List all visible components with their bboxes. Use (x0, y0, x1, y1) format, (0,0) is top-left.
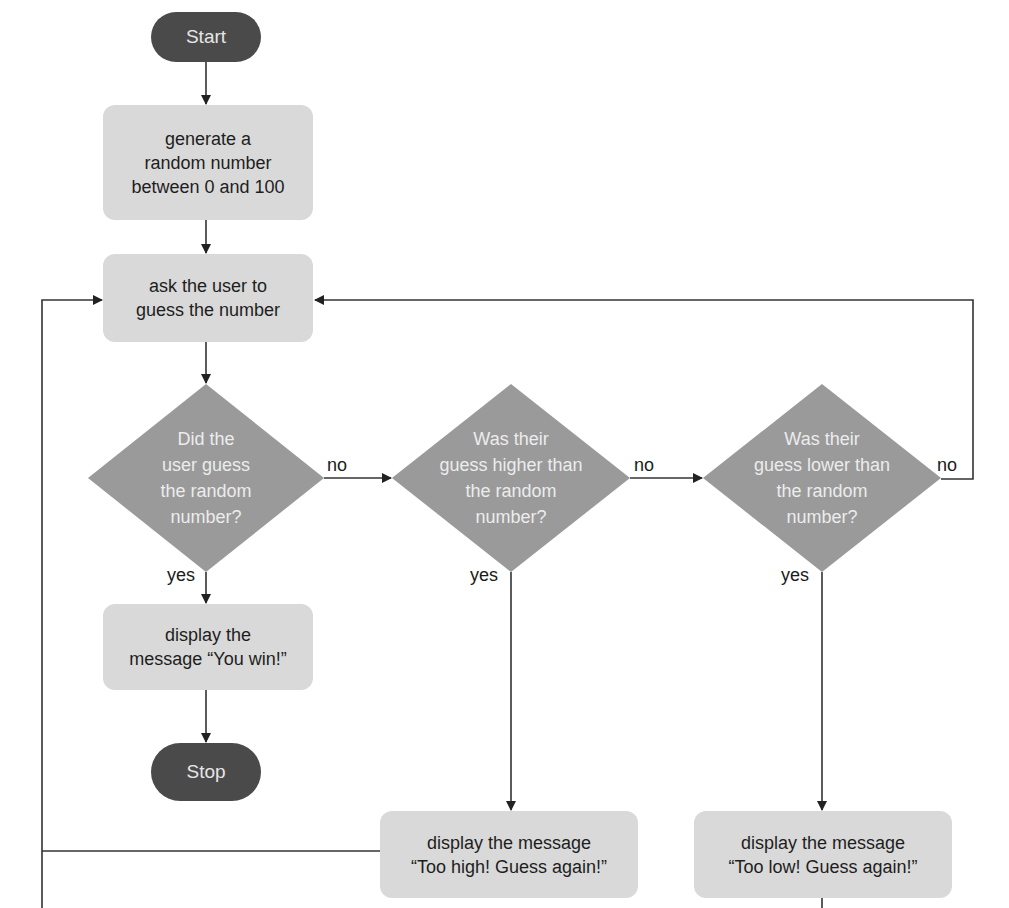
ask-guess-process: ask the user to guess the number (103, 254, 313, 342)
decision-correct-label: Did the user guess the random number? (160, 426, 251, 530)
too-high-message-process: display the message “Too high! Guess aga… (380, 811, 638, 898)
win-label: display the message “You win!” (129, 623, 286, 671)
edge-label-higher-no: no (634, 455, 654, 475)
edge-label-lower-yes: yes (781, 565, 809, 585)
too-low-message-process: display the message “Too low! Guess agai… (694, 811, 952, 898)
decision-correct: Did the user guess the random number? (126, 414, 286, 542)
edge-label-lower-no: no (937, 455, 957, 475)
edge-label-correct-yes: yes (167, 565, 195, 585)
decision-lower-label: Was their guess lower than the random nu… (754, 426, 890, 530)
start-label: Start (186, 26, 226, 48)
win-message-process: display the message “You win!” (103, 604, 313, 690)
generate-number-process: generate a random number between 0 and 1… (103, 105, 313, 220)
decision-lower: Was their guess lower than the random nu… (732, 414, 912, 542)
flowchart-canvas: Start generate a random number between 0… (0, 0, 1009, 908)
edge-label-higher-yes: yes (470, 565, 498, 585)
decision-higher-label: Was their guess higher than the random n… (439, 426, 582, 530)
stop-label: Stop (186, 761, 225, 783)
generate-label: generate a random number between 0 and 1… (131, 127, 284, 199)
decision-higher: Was their guess higher than the random n… (421, 414, 601, 542)
too-low-label: display the message “Too low! Guess agai… (728, 831, 917, 879)
too-high-label: display the message “Too high! Guess aga… (411, 831, 607, 879)
stop-terminal: Stop (151, 743, 261, 801)
start-terminal: Start (151, 12, 261, 62)
edge-label-correct-no: no (327, 455, 347, 475)
ask-label: ask the user to guess the number (136, 274, 280, 322)
edge-left-loop (42, 300, 102, 908)
